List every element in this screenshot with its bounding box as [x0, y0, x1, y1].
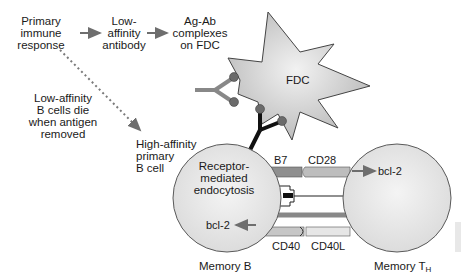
text-line: response: [4, 39, 78, 51]
side-note: Low-affinity B cells die when antigen re…: [22, 92, 104, 140]
text-line: affinity: [102, 27, 146, 39]
text-line: Low-affinity: [22, 92, 104, 104]
flow-step-low-affinity: Low- affinity antibody: [102, 15, 146, 51]
text-line: immune: [4, 27, 78, 39]
caption-main: Memory T: [374, 260, 426, 272]
cd28-bar: [303, 167, 351, 177]
bcl2-b-label: bcl-2: [206, 219, 230, 231]
text-line: Receptor-: [184, 160, 264, 172]
cd40-label: CD40: [272, 240, 300, 252]
text-line: endocytosis: [184, 184, 264, 196]
cd40l-label: CD40L: [311, 240, 345, 252]
bcl2-th-label: bcl-2: [378, 165, 402, 177]
cd40l-bar: [306, 227, 350, 236]
text-line: mediated: [184, 172, 264, 184]
caption-sub: H: [426, 265, 432, 274]
text-line: removed: [22, 128, 104, 140]
text-line: Low-: [102, 15, 146, 27]
memory-th-cell: [343, 144, 451, 252]
b7-label: B7: [274, 154, 287, 166]
flow-step-primary: Primary immune response: [4, 15, 78, 51]
peptide: [283, 193, 293, 198]
text-line: B cells die: [22, 104, 104, 116]
fdc-label: FDC: [286, 74, 310, 86]
flow-step-agab: Ag-Ab complexes on FDC: [172, 15, 228, 51]
text-line: complexes: [172, 27, 228, 39]
text-line: High-affinity: [136, 138, 197, 150]
cd28-label: CD28: [308, 154, 336, 166]
endocytosis-label: Receptor- mediated endocytosis: [184, 160, 264, 196]
text-line: on FDC: [172, 39, 228, 51]
edge-block: [455, 222, 461, 252]
gray-antibody: [195, 73, 239, 107]
text-line: antibody: [102, 39, 146, 51]
text-line: Ag-Ab: [172, 15, 228, 27]
memory-b-caption: Memory B: [199, 260, 251, 272]
text-line: when antigen: [22, 116, 104, 128]
memory-th-caption: Memory TH: [374, 260, 431, 276]
text-line: Primary: [4, 15, 78, 27]
